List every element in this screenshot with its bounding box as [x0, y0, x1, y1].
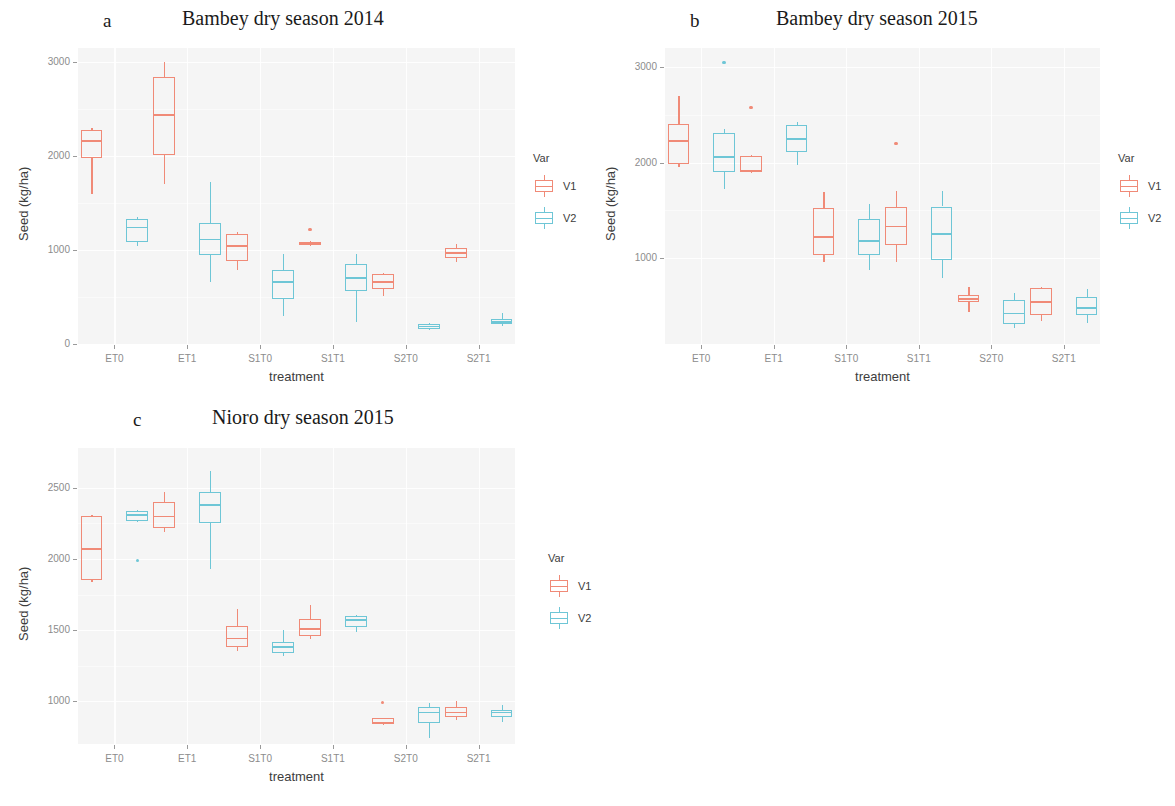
legend-key-median [535, 186, 553, 187]
legend-key-V1 [533, 174, 555, 198]
x-tick-label-S1T0: S1T0 [816, 353, 876, 364]
legend-key-median [1120, 218, 1138, 219]
x-tick-label-S2T0: S2T0 [961, 353, 1021, 364]
median-line [199, 504, 221, 506]
outlier-point [722, 61, 725, 64]
legend-key-V2 [533, 206, 555, 230]
y-tick-label: 1500 [26, 624, 70, 635]
outlier-point [749, 106, 752, 109]
whisker-lower [283, 653, 284, 656]
whisker-lower [164, 528, 165, 532]
legend-key-median [1120, 186, 1138, 187]
median-line [372, 281, 394, 283]
x-tick-mark [260, 745, 261, 749]
legend-item-V1[interactable]: V1 [533, 173, 576, 199]
x-tick-label-ET0: ET0 [84, 353, 144, 364]
whisker-upper [896, 191, 897, 207]
x-tick-label-S1T1: S1T1 [303, 353, 363, 364]
x-tick-mark [1064, 345, 1065, 349]
x-tick-label-ET0: ET0 [671, 353, 731, 364]
gridline-y [665, 67, 1100, 68]
whisker-lower [237, 261, 238, 269]
whisker-upper [823, 192, 824, 208]
median-line [931, 233, 953, 235]
x-axis-title: treatment [665, 369, 1100, 384]
gridline-y [78, 630, 515, 631]
median-line [813, 236, 835, 238]
legend-key-whisker-upper [559, 575, 560, 580]
whisker-upper [283, 254, 284, 270]
legend-key-median [535, 218, 553, 219]
whisker-lower [724, 172, 725, 189]
whisker-lower [91, 158, 92, 194]
median-line [345, 277, 367, 279]
median-line [272, 646, 294, 648]
x-axis-title: treatment [78, 369, 515, 384]
median-line [668, 140, 690, 142]
x-tick-label-S1T0: S1T0 [230, 753, 290, 764]
y-axis-title: Seed (kg/ha) [603, 167, 618, 241]
gridline-y-minor [665, 115, 1100, 116]
gridline-y [78, 559, 515, 560]
gridline-y-minor [665, 210, 1100, 211]
whisker-lower [869, 255, 870, 270]
gridline-x [991, 48, 992, 344]
box [126, 219, 148, 242]
legend-item-V2[interactable]: V2 [1118, 205, 1161, 231]
gridline-y-minor [78, 109, 515, 110]
legend-key-whisker-upper [559, 607, 560, 612]
box [226, 626, 248, 647]
legend-label-V2: V2 [1148, 212, 1161, 224]
median-line [345, 619, 367, 621]
whisker-upper [678, 96, 679, 125]
y-tick-mark [660, 163, 664, 164]
y-tick-label: 1000 [26, 695, 70, 706]
y-tick-mark [73, 62, 77, 63]
x-tick-label-S2T0: S2T0 [376, 353, 436, 364]
median-line [858, 240, 880, 242]
y-tick-label: 3000 [613, 61, 657, 72]
median-line [418, 712, 440, 714]
y-tick-mark [73, 630, 77, 631]
legend-label-V1: V1 [1148, 180, 1161, 192]
whisker-upper [942, 191, 943, 206]
box [813, 208, 835, 255]
whisker-lower [91, 580, 92, 581]
legend-title: Var [533, 152, 576, 164]
median-line [226, 638, 248, 640]
x-tick-label-S1T1: S1T1 [889, 353, 949, 364]
whisker-lower [1087, 315, 1088, 323]
panel-title-a: Bambey dry season 2014 [182, 7, 384, 30]
gridline-x [479, 448, 480, 744]
gridline-x [406, 448, 407, 744]
y-axis-title: Seed (kg/ha) [16, 567, 31, 641]
gridline-y [78, 62, 515, 63]
legend-key-V2 [1118, 206, 1140, 230]
legend-title: Var [548, 552, 591, 564]
gridline-x [919, 48, 920, 344]
whisker-upper [869, 204, 870, 219]
legend-item-V2[interactable]: V2 [533, 205, 576, 231]
whisker-upper [310, 605, 311, 619]
whisker-lower [429, 329, 430, 330]
median-line [153, 114, 175, 116]
gridline-x [187, 48, 188, 344]
legend-key-median [550, 618, 568, 619]
legend-key-V2 [548, 606, 570, 630]
median-line [126, 514, 148, 516]
legend-item-V2[interactable]: V2 [548, 605, 591, 631]
whisker-upper [237, 609, 238, 626]
legend-item-V1[interactable]: V1 [548, 573, 591, 599]
panel-tag-b: b [690, 10, 700, 32]
x-tick-mark [114, 745, 115, 749]
y-tick-mark [73, 156, 77, 157]
whisker-upper [210, 471, 211, 492]
whisker-lower [164, 155, 165, 184]
whisker-lower [456, 258, 457, 262]
plot-area-a [78, 48, 515, 344]
median-line [958, 298, 980, 300]
gridline-x [479, 48, 480, 344]
legend-item-V1[interactable]: V1 [1118, 173, 1161, 199]
panel-title-c: Nioro dry season 2015 [212, 406, 394, 429]
x-tick-label-S2T0: S2T0 [376, 753, 436, 764]
